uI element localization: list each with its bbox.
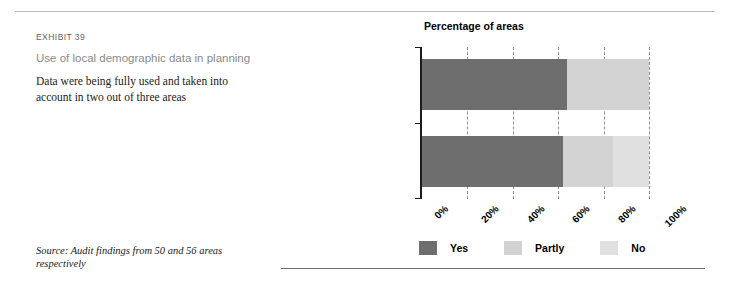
x-tick-0%: 0% [432, 203, 450, 221]
chart-legend: Yes Partly No [419, 241, 681, 255]
y-axis-tick-bottom [415, 198, 421, 199]
legend-swatch-yes [419, 241, 437, 255]
gridline-100 [649, 47, 650, 199]
legend-label-no: No [631, 242, 645, 254]
bar-segment-partly[interactable] [567, 59, 649, 110]
plot-area [422, 47, 649, 199]
legend-swatch-partly [504, 241, 522, 255]
chart-title: Percentage of areas [424, 20, 524, 32]
x-tick-60%: 60% [570, 203, 592, 225]
bar-segment-yes[interactable] [422, 136, 563, 187]
x-tick-20%: 20% [479, 203, 501, 225]
x-tick-40%: 40% [525, 203, 547, 225]
bar-row [422, 59, 649, 110]
stacked-bar-chart: Percentage of areas Demographic informat… [0, 0, 731, 287]
bar-segment-no[interactable] [613, 136, 649, 187]
y-axis-tick-mid [415, 123, 421, 124]
legend-swatch-no [600, 241, 618, 255]
x-tick-80%: 80% [615, 203, 637, 225]
x-tick-100%: 100% [662, 203, 688, 229]
bar-segment-partly[interactable] [563, 136, 613, 187]
bar-segment-yes[interactable] [422, 59, 567, 110]
legend-item-no[interactable]: No [600, 241, 645, 255]
legend-item-yes[interactable]: Yes [419, 241, 468, 255]
y-axis-tick-top [415, 47, 421, 48]
legend-label-partly: Partly [535, 242, 564, 254]
legend-label-yes: Yes [450, 242, 468, 254]
legend-item-partly[interactable]: Partly [504, 241, 564, 255]
bar-row [422, 136, 649, 187]
